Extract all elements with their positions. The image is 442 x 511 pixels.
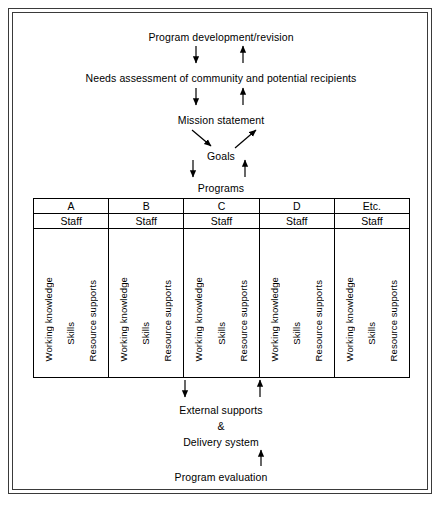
flow-label-needs-assessment: Needs assessment of community and potent… [0,72,442,84]
flow-label-external-supports: External supports [0,404,442,416]
column-staff-d: Staff [260,214,334,229]
vertical-label-working-knowledge: Working knowledge [44,277,54,361]
staff-competency-table: A Staff Working knowledge Skills Resourc… [33,198,410,378]
table-column-etc: Etc. Staff Working knowledge Skills Reso… [335,199,409,377]
column-header-d: D [260,199,334,214]
column-body-d: Working knowledge Skills Resource suppor… [260,229,334,377]
vertical-label-working-knowledge: Working knowledge [119,277,129,361]
table-column-a: A Staff Working knowledge Skills Resourc… [34,199,109,377]
flow-label-mission-statement: Mission statement [0,114,442,126]
vertical-label-skills: Skills [66,322,76,345]
flow-label-delivery-system: Delivery system [0,436,442,448]
column-body-b: Working knowledge Skills Resource suppor… [109,229,183,377]
vertical-label-working-knowledge: Working knowledge [194,277,204,361]
vertical-label-resource-supports: Resource supports [239,280,249,361]
flow-label-goals: Goals [0,150,442,162]
vertical-label-resource-supports: Resource supports [389,280,399,361]
column-staff-a: Staff [34,214,108,229]
column-header-c: C [184,199,258,214]
column-body-etc: Working knowledge Skills Resource suppor… [335,229,409,377]
column-header-a: A [34,199,108,214]
vertical-label-resource-supports: Resource supports [163,280,173,361]
flow-label-program-evaluation: Program evaluation [0,471,442,483]
program-planning-flow-diagram: Program development/revision Needs asses… [0,0,442,511]
column-staff-b: Staff [109,214,183,229]
flow-label-ampersand: & [0,420,442,432]
vertical-label-skills: Skills [141,322,151,345]
column-staff-c: Staff [184,214,258,229]
vertical-label-skills: Skills [217,322,227,345]
vertical-label-skills: Skills [367,322,377,345]
column-header-etc: Etc. [335,199,409,214]
table-column-c: C Staff Working knowledge Skills Resourc… [184,199,259,377]
vertical-label-working-knowledge: Working knowledge [345,277,355,361]
vertical-label-resource-supports: Resource supports [314,280,324,361]
vertical-label-skills: Skills [292,322,302,345]
column-body-c: Working knowledge Skills Resource suppor… [184,229,258,377]
column-header-b: B [109,199,183,214]
flow-label-program-development: Program development/revision [0,31,442,43]
column-staff-etc: Staff [335,214,409,229]
vertical-label-resource-supports: Resource supports [88,280,98,361]
vertical-label-working-knowledge: Working knowledge [270,277,280,361]
column-body-a: Working knowledge Skills Resource suppor… [34,229,108,377]
flow-label-programs: Programs [0,182,442,194]
table-column-b: B Staff Working knowledge Skills Resourc… [109,199,184,377]
table-column-d: D Staff Working knowledge Skills Resourc… [260,199,335,377]
